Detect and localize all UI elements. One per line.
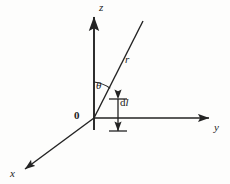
z-axis-label: z [99,2,103,13]
origin-label: 0 [74,110,80,121]
x-axis [25,118,94,169]
length-element-l: l [126,96,129,108]
radial-line-label: r [125,54,129,65]
polar-angle-label: θ [96,80,101,91]
x-axis-label: x [10,168,15,179]
y-axis-label: y [214,122,219,133]
diagram-canvas [0,0,230,184]
length-element-label: dl [120,97,129,108]
coordinate-diagram: z y x r θ 0 dl [0,0,230,184]
